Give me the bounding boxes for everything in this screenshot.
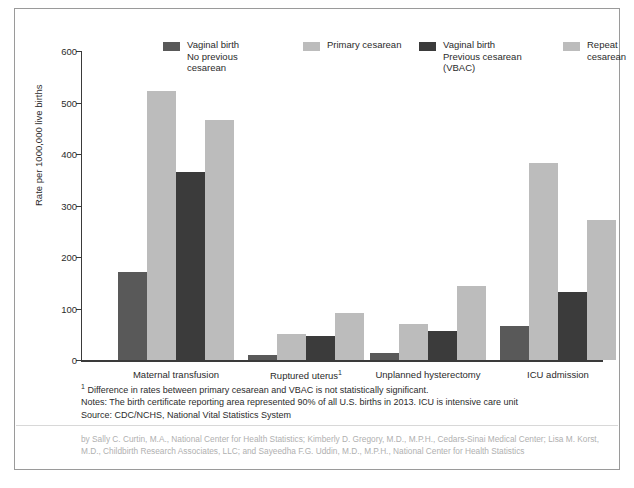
legend-swatch-icon <box>163 42 180 51</box>
notes-line: Notes: The birth certificate reporting a… <box>81 396 601 408</box>
y-axis-title: Rate per 1000,000 live births <box>33 85 44 206</box>
y-tick-label: 0 <box>72 355 77 366</box>
x-axis-line <box>81 360 603 362</box>
bar[interactable] <box>277 334 306 360</box>
bar-group <box>118 51 234 360</box>
bar[interactable] <box>558 292 587 360</box>
bar-groups <box>82 51 603 360</box>
bar[interactable] <box>500 326 529 361</box>
bar[interactable] <box>205 120 234 361</box>
legend-swatch-icon <box>419 42 436 51</box>
x-axis-label: Ruptured uterus1 <box>270 369 342 381</box>
credit-line: by Sally C. Curtin, M.A., National Cente… <box>81 433 603 457</box>
x-axis-label: ICU admission <box>527 369 589 380</box>
source-line: Source: CDC/NCHS, National Vital Statist… <box>81 409 601 421</box>
bar[interactable] <box>176 172 205 360</box>
legend-label: Primary cesarean <box>327 39 401 51</box>
chart-notes: 1 Difference in rates between primary ce… <box>81 381 601 421</box>
x-axis-label: Maternal transfusion <box>133 369 219 380</box>
legend-swatch-icon <box>563 42 580 51</box>
bar[interactable] <box>399 324 428 360</box>
x-axis-label: Unplanned hysterectomy <box>375 369 480 380</box>
legend-item-1[interactable]: Primary cesarean <box>303 39 401 51</box>
bar[interactable] <box>370 353 399 360</box>
bar[interactable] <box>306 336 335 360</box>
credit-divider <box>16 425 618 426</box>
plot-area: 0100200300400500600 Maternal transfusion… <box>81 51 603 362</box>
footnote-line: 1 Difference in rates between primary ce… <box>81 381 601 396</box>
bar[interactable] <box>457 286 486 360</box>
bar[interactable] <box>529 163 558 360</box>
bar[interactable] <box>147 91 176 360</box>
x-label-footnote-marker: 1 <box>338 369 342 376</box>
legend-swatch-icon <box>303 42 320 51</box>
bar[interactable] <box>118 272 147 360</box>
footnote-marker: 1 <box>81 383 85 390</box>
y-tick-label: 400 <box>61 149 77 160</box>
y-tick-label: 100 <box>61 303 77 314</box>
bar-group <box>500 51 616 360</box>
bar[interactable] <box>587 220 616 360</box>
bar-group <box>370 51 486 360</box>
bar-group <box>248 51 364 360</box>
y-tick-label: 600 <box>61 46 77 57</box>
y-tick-label: 200 <box>61 252 77 263</box>
bar[interactable] <box>335 313 364 360</box>
bar[interactable] <box>428 331 457 360</box>
y-tick-label: 500 <box>61 97 77 108</box>
y-tick-label: 300 <box>61 200 77 211</box>
bar[interactable] <box>248 355 277 360</box>
figure-frame: Vaginal birth No previous cesareanPrimar… <box>14 8 620 470</box>
